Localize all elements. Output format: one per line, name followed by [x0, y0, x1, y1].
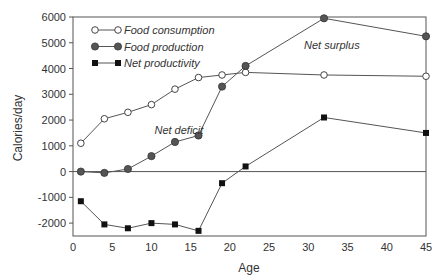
- open-circle-marker: [125, 109, 132, 116]
- annotation-text: Net surplus: [304, 39, 360, 51]
- legend-item: Net productivity: [92, 57, 201, 69]
- series-line: [81, 72, 426, 143]
- y-tick-label: 5000: [42, 37, 66, 49]
- open-circle-marker: [219, 72, 226, 79]
- open-circle-marker: [92, 27, 99, 34]
- filled-square-marker: [423, 130, 429, 136]
- x-tick-label: 0: [70, 241, 76, 253]
- open-circle-marker: [101, 115, 108, 122]
- open-circle-marker: [242, 69, 249, 76]
- x-tick-label: 40: [381, 241, 393, 253]
- y-axis: -2000-10000100020003000400050006000: [38, 11, 73, 229]
- y-axis-label: Calories/day: [11, 95, 25, 162]
- y-tick-label: 0: [60, 166, 66, 178]
- filled-circle-marker: [242, 62, 249, 69]
- open-circle-marker: [115, 27, 122, 34]
- y-tick-label: 6000: [42, 11, 66, 23]
- filled-square-marker: [243, 163, 249, 169]
- y-tick-label: -2000: [38, 217, 66, 229]
- legend: Food consumptionFood productionNet produ…: [91, 24, 214, 69]
- legend-label: Net productivity: [124, 57, 201, 69]
- filled-circle-marker: [77, 168, 84, 175]
- line-chart: -2000-10000100020003000400050006000 0510…: [0, 0, 444, 280]
- filled-circle-marker: [114, 43, 121, 50]
- open-circle-marker: [423, 73, 430, 80]
- legend-item: Food production: [91, 41, 203, 53]
- open-circle-marker: [195, 74, 202, 81]
- x-axis-label: Age: [238, 261, 260, 275]
- series-food-production: [77, 15, 429, 177]
- filled-square-marker: [92, 60, 98, 66]
- y-tick-label: -1000: [38, 191, 66, 203]
- filled-circle-marker: [320, 15, 327, 22]
- y-tick-label: 3000: [42, 88, 66, 100]
- filled-square-marker: [321, 114, 327, 120]
- open-circle-marker: [148, 101, 155, 108]
- series-food-consumption: [78, 69, 430, 146]
- series-net-productivity: [78, 114, 429, 233]
- legend-label: Food consumption: [124, 24, 215, 36]
- x-tick-label: 15: [185, 241, 197, 253]
- x-tick-label: 5: [109, 241, 115, 253]
- filled-square-marker: [148, 220, 154, 226]
- x-tick-label: 30: [302, 241, 314, 253]
- filled-square-marker: [125, 225, 131, 231]
- legend-item: Food consumption: [92, 24, 215, 36]
- filled-square-marker: [115, 60, 121, 66]
- annotations: Net deficitNet surplus: [154, 39, 360, 136]
- open-circle-marker: [78, 140, 85, 147]
- annotation-text: Net deficit: [154, 124, 204, 136]
- filled-circle-marker: [101, 169, 108, 176]
- x-tick-label: 25: [263, 241, 275, 253]
- legend-label: Food production: [124, 41, 204, 53]
- filled-circle-marker: [171, 138, 178, 145]
- x-tick-label: 45: [420, 241, 432, 253]
- filled-square-marker: [101, 221, 107, 227]
- filled-square-marker: [219, 180, 225, 186]
- filled-circle-marker: [148, 153, 155, 160]
- y-tick-label: 2000: [42, 114, 66, 126]
- series-line: [81, 117, 426, 230]
- filled-square-marker: [196, 228, 202, 234]
- filled-circle-marker: [91, 43, 98, 50]
- filled-square-marker: [172, 221, 178, 227]
- filled-square-marker: [78, 198, 84, 204]
- filled-circle-marker: [124, 165, 131, 172]
- x-tick-label: 35: [341, 241, 353, 253]
- x-tick-label: 10: [145, 241, 157, 253]
- x-axis: 051015202530354045: [70, 241, 432, 253]
- y-tick-label: 4000: [42, 63, 66, 75]
- filled-circle-marker: [422, 33, 429, 40]
- x-tick-label: 20: [224, 241, 236, 253]
- open-circle-marker: [172, 86, 179, 93]
- y-tick-label: 1000: [42, 140, 66, 152]
- filled-circle-marker: [218, 83, 225, 90]
- open-circle-marker: [321, 72, 328, 79]
